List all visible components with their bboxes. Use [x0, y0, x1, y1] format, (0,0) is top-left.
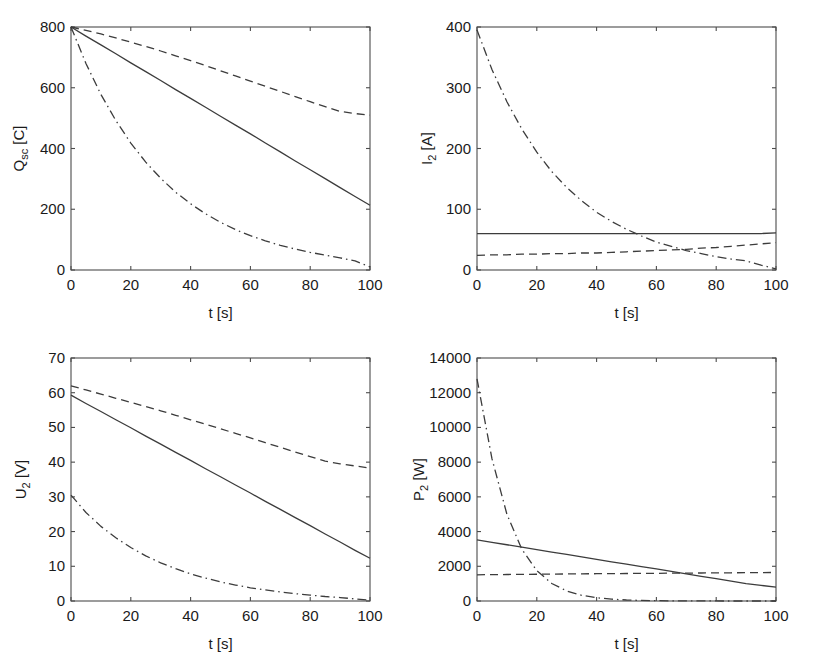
y-tick-label: 800	[40, 18, 65, 35]
y-tick-label: 12000	[429, 384, 471, 401]
x-axis-label: t [s]	[614, 635, 638, 652]
x-tick-label: 100	[357, 607, 382, 624]
x-tick-label: 60	[648, 607, 665, 624]
x-tick-label: 20	[122, 276, 139, 293]
y-tick-label: 0	[463, 261, 471, 278]
x-tick-label: 60	[648, 276, 665, 293]
y-tick-label: 2000	[438, 557, 471, 574]
plot-panel-i-2: 0204060801000100200300400t [s]I2 [A]	[406, 0, 812, 331]
x-tick-label: 80	[302, 276, 319, 293]
y-tick-label: 100	[446, 200, 471, 217]
y-tick-label: 20	[48, 523, 65, 540]
x-axis-label: t [s]	[614, 304, 638, 321]
svg-text:U2 [V]: U2 [V]	[12, 460, 32, 499]
axes-q-sc: 0204060801000200400600800t [s]Qsc [C]	[0, 0, 406, 331]
series-dash-dot	[71, 27, 370, 267]
axes-u-2: 020406080100010203040506070t [s]U2 [V]	[0, 331, 406, 662]
y-tick-label: 600	[40, 79, 65, 96]
y-tick-label: 30	[48, 488, 65, 505]
figure-canvas: 0204060801000200400600800t [s]Qsc [C] 02…	[0, 0, 813, 662]
x-tick-label: 80	[708, 276, 725, 293]
y-tick-label: 10	[48, 557, 65, 574]
y-tick-label: 200	[40, 200, 65, 217]
x-tick-label: 20	[528, 276, 545, 293]
x-tick-label: 40	[588, 607, 605, 624]
x-tick-label: 0	[67, 276, 75, 293]
plot-panel-u-2: 020406080100010203040506070t [s]U2 [V]	[0, 331, 406, 662]
x-axis-label: t [s]	[208, 635, 232, 652]
x-tick-label: 100	[763, 276, 788, 293]
svg-text:P2 [W]: P2 [W]	[410, 458, 430, 501]
x-tick-label: 100	[763, 607, 788, 624]
series-dash-dot	[71, 495, 370, 600]
x-axis-label: t [s]	[208, 304, 232, 321]
y-tick-label: 0	[463, 592, 471, 609]
y-tick-label: 10000	[429, 418, 471, 435]
axes-box	[71, 358, 370, 601]
y-tick-label: 60	[48, 384, 65, 401]
svg-text:I2 [A]: I2 [A]	[418, 132, 438, 165]
x-tick-label: 40	[588, 276, 605, 293]
y-tick-label: 400	[446, 18, 471, 35]
x-tick-label: 0	[473, 276, 481, 293]
series-dashed	[477, 572, 776, 574]
series-solid	[71, 27, 370, 205]
x-tick-label: 80	[708, 607, 725, 624]
y-tick-label: 40	[48, 453, 65, 470]
x-tick-label: 40	[182, 276, 199, 293]
svg-text:Qsc [C]: Qsc [C]	[10, 125, 30, 171]
y-axis-label: Qsc [C]	[10, 125, 30, 171]
series-dashed	[71, 27, 370, 115]
y-tick-label: 50	[48, 418, 65, 435]
y-tick-label: 14000	[429, 349, 471, 366]
series-dash-dot	[477, 379, 776, 601]
series-dashed	[71, 386, 370, 468]
y-axis-label: U2 [V]	[12, 460, 32, 499]
axes-p-2: 0204060801000200040006000800010000120001…	[406, 331, 812, 662]
x-tick-label: 60	[242, 607, 259, 624]
x-tick-label: 0	[67, 607, 75, 624]
series-solid	[477, 233, 776, 234]
axes-box	[71, 27, 370, 270]
y-tick-label: 200	[446, 140, 471, 157]
x-tick-label: 80	[302, 607, 319, 624]
x-tick-label: 20	[528, 607, 545, 624]
x-tick-label: 100	[357, 276, 382, 293]
series-solid	[71, 395, 370, 558]
y-tick-label: 400	[40, 140, 65, 157]
axes-i-2: 0204060801000100200300400t [s]I2 [A]	[406, 0, 812, 331]
plot-panel-p-2: 0204060801000200040006000800010000120001…	[406, 331, 812, 662]
y-axis-label: I2 [A]	[418, 132, 438, 165]
x-tick-label: 0	[473, 607, 481, 624]
y-tick-label: 4000	[438, 523, 471, 540]
y-tick-label: 0	[57, 261, 65, 278]
x-tick-label: 60	[242, 276, 259, 293]
series-dashed	[477, 243, 776, 256]
y-axis-label: P2 [W]	[410, 458, 430, 501]
y-tick-label: 8000	[438, 453, 471, 470]
y-tick-label: 70	[48, 349, 65, 366]
x-tick-label: 40	[182, 607, 199, 624]
y-tick-label: 300	[446, 79, 471, 96]
series-solid	[477, 540, 776, 587]
y-tick-label: 6000	[438, 488, 471, 505]
x-tick-label: 20	[122, 607, 139, 624]
plot-panel-q-sc: 0204060801000200400600800t [s]Qsc [C]	[0, 0, 406, 331]
y-tick-label: 0	[57, 592, 65, 609]
